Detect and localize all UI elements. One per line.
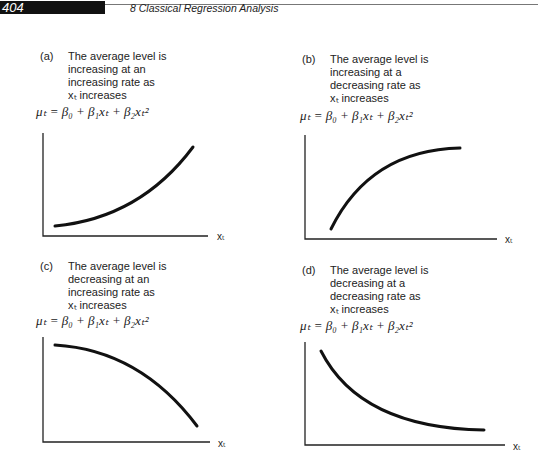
plots-canvas: xₜ xₜ xₜ xₜ [0, 0, 538, 465]
panel-b-curve [331, 148, 460, 229]
panel-d-x-label: xₜ [513, 441, 521, 452]
panel-c-x-label: xₜ [218, 438, 226, 449]
panel-a-curve [55, 147, 193, 226]
panel-d-curve [321, 351, 484, 430]
panel-c-axes [43, 337, 210, 442]
panel-a-axes [43, 133, 208, 236]
panel-b-x-label: xₜ [505, 234, 513, 245]
panel-a-x-label: xₜ [217, 231, 225, 242]
panel-c-curve [55, 345, 197, 426]
